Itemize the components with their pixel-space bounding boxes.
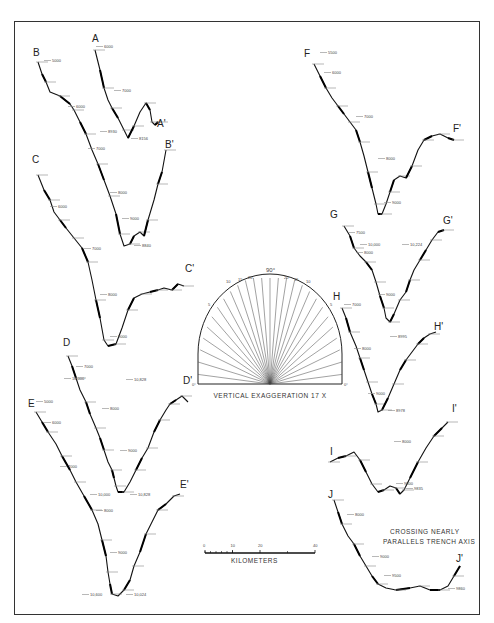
sounding-segment [80, 122, 86, 134]
angle-label: 20 [284, 275, 289, 280]
sounding-segment [82, 248, 88, 262]
sounding-segment [44, 190, 50, 200]
depth-label: 8995 [398, 334, 408, 339]
scale-bar: 0102040KILOMETERS [203, 543, 318, 564]
depth-label: 9000 [118, 550, 128, 555]
depth-label: 10,828 [138, 492, 151, 497]
sounding-segment [390, 314, 394, 322]
profile-end-label: B' [165, 139, 174, 150]
sounding-segment [42, 74, 46, 82]
profile-C: CC'6000700080009000 [32, 154, 194, 346]
profile-line [330, 422, 448, 494]
profile-line [95, 50, 158, 138]
scale-tick-label: 40 [313, 543, 318, 548]
depth-label: 6000 [52, 420, 62, 425]
depth-label: 9000 [130, 216, 140, 221]
sounding-segment [338, 512, 342, 524]
angle-label: 90° [266, 267, 276, 273]
scale-tick-label: 20 [258, 543, 263, 548]
depth-label: 7000 [84, 364, 94, 369]
sounding-segment [136, 458, 142, 470]
profile-start-label: I [330, 446, 333, 457]
depth-label: 10,024 [134, 592, 147, 597]
sounding-segment [400, 360, 406, 370]
depth-label: 9000 [376, 391, 386, 396]
depth-label: 9000 [380, 554, 390, 559]
sounding-segment [112, 470, 114, 478]
profile-A: AA'6000700089308156 [92, 33, 168, 141]
depth-label: 5500 [328, 50, 338, 55]
sounding-segment [454, 566, 460, 576]
exaggeration-ray [245, 280, 270, 384]
depth-label: 9000 [128, 448, 138, 453]
profile-end-label: E' [180, 479, 189, 490]
profile-end-label: C' [185, 263, 194, 274]
exaggeration-ray [270, 307, 323, 384]
scale-tick-label: 10 [231, 543, 236, 548]
depth-label: 7000 [96, 146, 106, 151]
depth-label: 8000 [110, 406, 120, 411]
depth-label: 8156 [139, 136, 149, 141]
angle-5-left: 5 [208, 302, 211, 307]
exaggeration-ray [270, 362, 342, 384]
sounding-segment [158, 504, 166, 510]
sounding-segment [128, 298, 134, 310]
depth-label: 7000 [68, 464, 78, 469]
note-line-2: PARALLELS TRENCH AXIS [383, 538, 475, 545]
profile-end-label: D' [183, 375, 192, 386]
exaggeration-ray [270, 280, 295, 384]
profile-start-label: C [32, 154, 39, 165]
note-line-1: CROSSING NEARLY [390, 528, 460, 535]
angle-label: 15 [238, 277, 243, 282]
sounding-segment [356, 130, 360, 142]
depth-label: 9835 [414, 486, 424, 491]
vertical-exaggeration-diagram: 10152090°2015100°0°55VERTICAL EXAGGERATI… [192, 267, 348, 399]
profile-F: FF'5500600070008000900010,00010,224 [304, 48, 464, 247]
sounding-segment [406, 280, 410, 292]
sounding-segment [100, 70, 104, 88]
sounding-segment [100, 438, 104, 450]
exaggeration-ray [198, 374, 270, 384]
sounding-segment [360, 460, 366, 472]
depth-label: 6000 [332, 70, 342, 75]
depth-label: 7000 [92, 246, 102, 251]
sounding-segment [144, 220, 148, 236]
depth-label: 8000 [108, 292, 118, 297]
angle-5-right: 5 [330, 302, 333, 307]
angle-zero-left: 0° [192, 382, 196, 387]
sounding-segment [338, 106, 344, 114]
profile-end-label: G' [443, 215, 453, 226]
sounding-segment [346, 318, 350, 332]
exaggeration-ray [198, 362, 270, 384]
depth-label: 9000 [392, 200, 402, 205]
exaggeration-ray [253, 278, 270, 384]
profile-B: BB'500060007000800090008840 [33, 47, 176, 248]
exaggeration-ray [270, 350, 340, 384]
depth-label: 6000 [104, 44, 114, 49]
sounding-segment [410, 462, 418, 478]
profile-start-label: G [330, 209, 338, 220]
depth-label: 10,224 [410, 242, 423, 247]
profile-end-label: I' [452, 403, 457, 414]
sounding-segment [424, 136, 432, 140]
exaggeration-ray [270, 278, 287, 384]
sounding-segment [372, 576, 378, 584]
depth-label: 9500 [392, 573, 402, 578]
sounding-segment [130, 236, 134, 244]
sounding-segment [366, 262, 372, 270]
depth-label: 9860 [456, 586, 466, 591]
depth-label: 8000 [104, 508, 114, 513]
profile-end-label: H' [434, 321, 443, 332]
profile-line [344, 226, 444, 322]
sounding-segment [128, 126, 134, 138]
sounding-segment [110, 584, 112, 594]
profile-start-label: B [33, 47, 40, 58]
sounding-segment [390, 180, 394, 192]
sounding-segment [154, 420, 160, 432]
profile-line [342, 308, 436, 412]
profile-start-label: J [328, 489, 333, 500]
depth-label: 8840 [142, 243, 152, 248]
profile-start-label: A [92, 33, 99, 44]
sounding-segment [350, 236, 354, 248]
depth-label: 10,000 [72, 376, 85, 381]
